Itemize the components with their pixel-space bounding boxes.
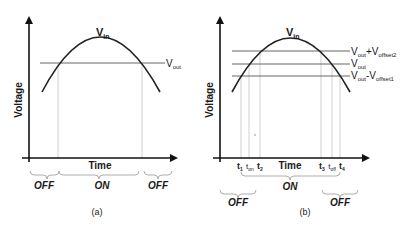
panel-a: Vin Vout Voltage Time OFF ON OFF (a) (13, 18, 181, 217)
vout-label: Vout (351, 58, 366, 70)
caption-a: (a) (92, 207, 103, 217)
y-axis-label: Voltage (13, 82, 24, 118)
region-on: ON (283, 181, 299, 192)
time-mark-toff: toff (328, 162, 336, 172)
brace-on (241, 172, 340, 180)
vin-label: Vin (96, 26, 110, 40)
brace-off-left (30, 171, 59, 179)
diagram-canvas: Vin Vout Voltage Time OFF ON OFF (a) Vin… (0, 0, 410, 228)
vout-plus-offset2-label: Vout+Voffset2 (351, 46, 397, 58)
x-axis-label: Time (88, 160, 112, 171)
caption-b: (b) (300, 207, 311, 217)
region-off-left: OFF (34, 180, 55, 191)
region-off-right: OFF (330, 197, 351, 208)
region-on: ON (95, 180, 111, 191)
time-mark-t3: t3 (319, 161, 325, 172)
y-axis-label: Voltage (204, 82, 215, 118)
x-axis-label: Time (278, 160, 302, 171)
brace-on (59, 171, 139, 179)
stray-dot (254, 134, 256, 136)
time-mark-t1: t1 (237, 161, 243, 172)
time-mark-ton: ton (246, 162, 254, 172)
region-off-left: OFF (228, 197, 249, 208)
vout-label: Vout (166, 58, 181, 70)
vin-label: Vin (286, 26, 300, 40)
time-mark-t4: t4 (339, 161, 345, 172)
time-mark-t2: t2 (257, 161, 263, 172)
brace-off-right (144, 171, 172, 179)
panel-b: Vin Vout+Voffset2 Vout Vout-Voffset1 Vol… (204, 18, 397, 217)
vout-minus-offset1-label: Vout-Voffset1 (351, 70, 395, 82)
region-off-right: OFF (148, 180, 169, 191)
